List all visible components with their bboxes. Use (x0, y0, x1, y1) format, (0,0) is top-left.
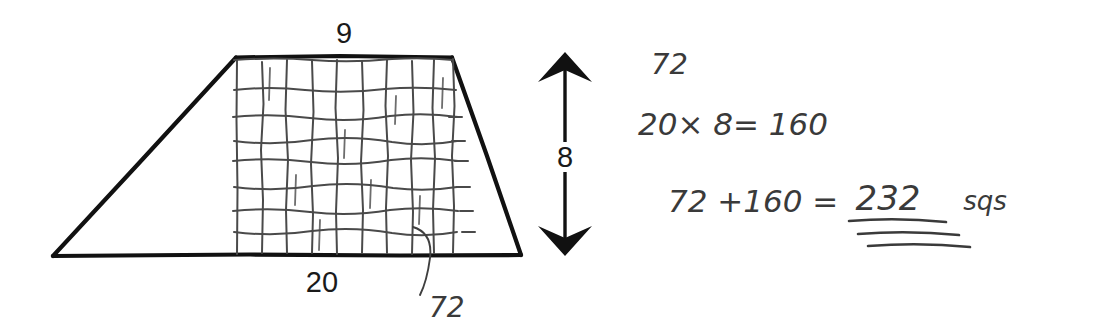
worksheet-canvas: 9 20 8 72 72 20× 8= 160 72 +160 = 232 sq… (0, 0, 1098, 335)
grid-tick-vertical (395, 96, 396, 124)
grid-tick-vertical (442, 78, 443, 108)
grid-count-label: 72 (429, 291, 465, 324)
work-line-triangle-area: 72 (651, 47, 688, 81)
bottom-dimension-label: 20 (306, 266, 338, 298)
grid-tick-vertical (295, 175, 296, 205)
grid-line-horizontal (234, 184, 457, 190)
worksheet-drawing: 9 20 8 72 72 20× 8= 160 72 +160 = 232 sq… (0, 0, 1098, 335)
grid-count-callout: 72 (413, 227, 465, 324)
grid-line-horizontal (234, 88, 456, 92)
trapezoid-bottom-edge (53, 255, 521, 257)
grid-line-horizontal (233, 158, 458, 164)
callout-leader-line (413, 227, 430, 295)
grid-line-vertical (336, 60, 339, 254)
grid-line-vertical (361, 61, 364, 253)
grid-line-vertical (261, 62, 264, 253)
answer-underline (849, 219, 946, 222)
handwritten-work: 72 20× 8= 160 72 +160 = 232 sqs (638, 47, 1007, 247)
grid-tick-vertical (419, 196, 420, 224)
work-answer-units: sqs (963, 186, 1007, 216)
hand-drawn-grid (233, 58, 475, 254)
height-double-arrow: 8 (538, 52, 592, 256)
grid-line-vertical (452, 59, 455, 253)
grid-line-horizontal (233, 114, 458, 120)
grid-line-horizontal (234, 58, 453, 61)
grid-tick-vertical (344, 130, 345, 158)
grid-line-horizontal (233, 208, 458, 214)
trapezoid-left-slant (53, 58, 236, 257)
top-dimension-label: 9 (336, 17, 352, 49)
answer-underline (858, 232, 959, 235)
work-answer-value: 232 (856, 178, 921, 218)
work-line-total-area: 72 +160 = (668, 183, 838, 219)
grid-tick-vertical (269, 68, 270, 100)
trapezoid-right-slant (452, 58, 521, 256)
answer-underline (868, 244, 970, 247)
grid-tick-vertical (319, 220, 320, 250)
height-dimension-label: 8 (557, 141, 573, 173)
work-line-rectangle-area: 20× 8= 160 (638, 106, 828, 142)
